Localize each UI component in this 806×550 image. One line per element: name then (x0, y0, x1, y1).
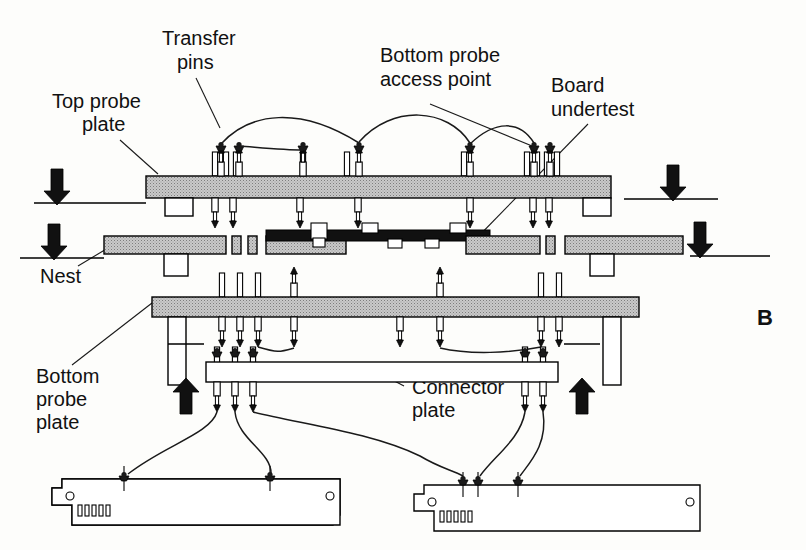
interface-board-left-term-b (265, 472, 275, 481)
label-board-undertest: Board undertest (470, 74, 635, 245)
wire-access-left (258, 347, 294, 351)
label-top-probe-plate-line1: Top probe (52, 90, 141, 112)
label-bottom-probe-plate-line1: Bottom (36, 365, 99, 387)
bottom-plate-probes-down (219, 317, 563, 347)
leader-top-probe-plate (120, 140, 158, 174)
wire-top-1 (239, 146, 303, 150)
wire-top-2 (221, 118, 359, 144)
transfer-pins (218, 146, 554, 176)
transfer-pin-terminals (216, 142, 555, 151)
label-bottom-probe-access-line2: access point (380, 68, 492, 90)
wire-top-4 (470, 126, 534, 144)
label-top-probe-plate: Top probe plate (52, 90, 158, 174)
nest-spacer-b (248, 236, 257, 254)
panel-letter: B (757, 305, 773, 330)
interface-board-right-term-a (458, 476, 468, 485)
label-bottom-probe-access-point: Bottom probe access point (380, 44, 537, 148)
label-transfer-pins: Transfer pins (162, 27, 236, 128)
bottom-probe-plate (152, 297, 639, 317)
test-fixture-diagram: Transfer pins Top probe plate Bottom pro… (0, 0, 806, 550)
harness-wire-5 (520, 412, 544, 476)
nest-segment-inner-right (466, 236, 540, 254)
label-connector-plate-line2: plate (412, 399, 455, 421)
force-arrow-top-right (660, 165, 686, 201)
leader-bottom-probe-plate (72, 303, 152, 365)
leader-transfer-pins (196, 78, 220, 128)
nest-segment-outer-right (565, 236, 683, 254)
harness-wire-3 (253, 412, 463, 476)
wire-top-3 (359, 115, 470, 143)
interface-board-left-hole-a (66, 492, 74, 500)
label-bottom-probe-plate-line3: plate (36, 411, 79, 433)
nest-spacer-a (232, 236, 241, 254)
label-bottom-probe-access-line1: Bottom probe (380, 44, 500, 66)
label-transfer-pins-line2: pins (177, 51, 214, 73)
bottom-plate-post-right (603, 317, 621, 385)
interface-board-right-term-c (513, 476, 523, 485)
nest-segment-outer-left (104, 236, 226, 254)
top-probe-plate (146, 176, 611, 198)
leader-bottom-probe-access (430, 104, 537, 148)
label-bottom-probe-plate-line2: probe (36, 388, 87, 410)
harness-wire-2 (235, 412, 271, 474)
label-transfer-pins-line1: Transfer (162, 27, 236, 49)
nest-spacer-c (546, 236, 555, 254)
top-plate-standoff-right (583, 198, 611, 216)
interface-board-right-hole-b (686, 498, 694, 506)
interface-board-right-term-b (473, 476, 483, 485)
label-bottom-probe-plate: Bottom probe plate (36, 303, 152, 433)
force-arrow-top-left (44, 169, 70, 205)
figure-canvas: Transfer pins Top probe plate Bottom pro… (0, 0, 806, 550)
interface-board-right (414, 485, 700, 531)
harness-wire-1 (128, 412, 217, 474)
harness-wire-4 (480, 412, 525, 476)
bottom-plate-probes-up (291, 267, 444, 297)
label-board-undertest-line2: undertest (551, 98, 635, 120)
label-board-undertest-line1: Board (551, 74, 604, 96)
interface-board-left-term-a (119, 472, 129, 481)
label-nest: Nest (40, 265, 82, 287)
interface-board-right-hole-a (428, 498, 436, 506)
label-top-probe-plate-line2: plate (82, 113, 125, 135)
force-arrow-mid-right (687, 222, 713, 258)
top-plate-standoff-left (165, 198, 193, 216)
force-arrow-mid-left (41, 224, 67, 260)
top-plate-guide-pins-up (212, 152, 559, 176)
connector-plate (206, 362, 558, 382)
bottom-plate-guide-pins-up (219, 273, 561, 297)
bottom-plate-post-left (168, 317, 186, 385)
interface-board-left-hole-b (326, 492, 334, 500)
interface-board-left-body (52, 479, 340, 525)
nest-standoff-left (164, 254, 188, 276)
nest-standoff-right (590, 254, 614, 276)
force-arrow-bottom-right (569, 378, 595, 414)
